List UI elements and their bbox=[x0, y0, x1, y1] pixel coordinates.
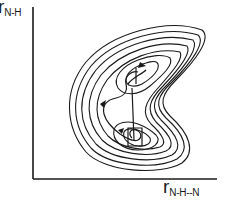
contour-lines bbox=[69, 26, 205, 171]
contour-2 bbox=[76, 32, 201, 165]
trajectory bbox=[104, 68, 147, 146]
contour-plot bbox=[0, 0, 235, 207]
trajectory-arrows bbox=[100, 62, 146, 134]
contour-upper-well-1 bbox=[116, 56, 171, 94]
contour-4 bbox=[89, 44, 188, 154]
